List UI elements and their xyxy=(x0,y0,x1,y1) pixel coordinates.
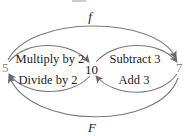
cropped-title-fragment xyxy=(72,0,86,2)
label-multiply-by-2: Multiply by 2 xyxy=(16,52,85,66)
node-5: 5 xyxy=(2,60,9,75)
label-subtract-3: Subtract 3 xyxy=(109,52,160,66)
label-add-3: Add 3 xyxy=(119,73,150,87)
function-diagram: 5 10 7 f F Multiply by 2 Divide by 2 Sub… xyxy=(0,0,185,136)
label-divide-by-2: Divide by 2 xyxy=(18,73,77,87)
label-f: f xyxy=(88,9,94,24)
label-F: F xyxy=(87,120,97,135)
node-10: 10 xyxy=(85,62,98,77)
node-7: 7 xyxy=(176,60,183,75)
